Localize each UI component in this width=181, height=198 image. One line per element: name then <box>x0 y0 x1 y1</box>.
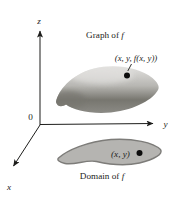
origin-label: 0 <box>28 112 33 122</box>
domain-region: (x, y) <box>58 139 161 165</box>
graph-surface <box>51 64 159 113</box>
function-of-two-variables-figure: z y x 0 (x, y) Graph of f (x, y, f(x, y)… <box>0 0 181 198</box>
domain-blob <box>58 139 161 165</box>
graph-point-label: (x, y, f(x, y)) <box>115 53 158 63</box>
domain-title: Domain of f <box>80 171 126 181</box>
domain-point-label: (x, y) <box>111 149 130 159</box>
x-axis-label: x <box>6 182 12 192</box>
y-axis-label: y <box>163 119 169 129</box>
x-axis <box>14 125 41 166</box>
surface-shadow-tip <box>51 91 85 109</box>
domain-point-dot <box>137 150 143 156</box>
graph-point-dot <box>124 73 130 79</box>
y-axis <box>40 124 153 125</box>
z-axis-label: z <box>36 16 41 26</box>
graph-title: Graph of f <box>86 30 125 40</box>
diagram-canvas: z y x 0 (x, y) Graph of f (x, y, f(x, y)… <box>0 0 181 198</box>
